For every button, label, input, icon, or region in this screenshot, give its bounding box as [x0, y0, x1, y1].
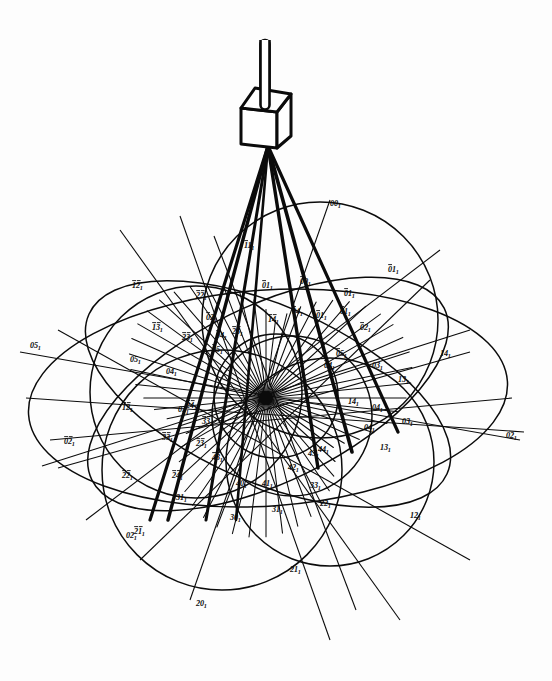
index-131-right-text: 131 — [398, 375, 409, 385]
index-bar051-right-text: 051 — [336, 349, 347, 359]
index-021-far-right-text: 021 — [506, 431, 517, 441]
index-031-right-lower-text: 031 — [402, 417, 413, 427]
index-bar011-right-upper-text: 011 — [344, 289, 355, 299]
index-141-right-text: 141 — [440, 349, 451, 359]
index-441-lower: 441 — [317, 445, 329, 455]
index-bar001-upper: 001 — [300, 277, 311, 287]
index-301-bottom: 301 — [229, 513, 241, 523]
index-221-lower: 221 — [319, 499, 331, 509]
crystallographic-projection-figure: 0010111110110010110210111212211312311410… — [0, 0, 552, 681]
index-bar331-left-text: 331 — [161, 433, 173, 443]
index-bar041-left-inner: 041 — [216, 331, 227, 341]
crystal-mount-layer — [241, 40, 291, 148]
index-bar241-mid-text: 241 — [185, 401, 197, 411]
index-211-bottom-text: 211 — [289, 565, 301, 575]
index-bar131-left-text: 131 — [152, 323, 163, 333]
index-201-bottom-text: 201 — [195, 599, 207, 609]
projection-pole-001 — [259, 391, 273, 405]
index-bar021-right-text: 021 — [360, 323, 371, 333]
index-041-right-text: 041 — [372, 403, 383, 413]
index-001-top-text: 001 — [330, 199, 341, 209]
index-bar121-left-text: 121 — [122, 403, 133, 413]
index-bar011-upper-mid: 011 — [262, 281, 273, 291]
index-bar231-left-text: 231 — [181, 333, 193, 343]
index-311-bottom-text: 311 — [271, 505, 283, 515]
index-051-far-left: 051 — [30, 341, 41, 351]
cube-front-face — [241, 108, 277, 148]
index-331-lower-text: 331 — [309, 481, 321, 491]
index-bar041-right: 041 — [324, 361, 335, 371]
index-bar221-lower-left: 221 — [121, 471, 133, 481]
index-bar041-upper: 041 — [292, 307, 303, 317]
zone-line-d1 — [120, 230, 400, 620]
index-211-bottom: 211 — [289, 565, 301, 575]
index-221-lower-text: 221 — [319, 499, 331, 509]
index-031-right-lower: 031 — [402, 417, 413, 427]
index-bar011-upper-mid-text: 011 — [262, 281, 273, 291]
index-311-bottom: 311 — [271, 505, 283, 515]
index-131-right: 131 — [398, 375, 409, 385]
index-bar231-upper-text: 231 — [231, 327, 243, 337]
index-bar011-right-upper: 011 — [344, 289, 355, 299]
index-051-left-text: 051 — [130, 355, 141, 365]
index-051-left: 051 — [130, 355, 141, 365]
index-bar021-right: 021 — [360, 323, 371, 333]
index-bar331-mid: 331 — [201, 417, 213, 427]
index-141-right: 141 — [440, 349, 451, 359]
index-bar121-left: 121 — [122, 403, 133, 413]
index-041-mid-right: 041 — [364, 423, 375, 433]
index-bar051-right: 051 — [336, 349, 347, 359]
index-bar231-lower: 231 — [195, 439, 207, 449]
index-031-right-text: 031 — [372, 361, 383, 371]
index-bar331-left: 331 — [161, 433, 173, 443]
index-bar131-left: 131 — [152, 323, 163, 333]
index-301-bottom-text: 301 — [229, 513, 241, 523]
index-121-right-lower-text: 121 — [410, 511, 421, 521]
index-421-lower: 421 — [287, 463, 299, 473]
index-201-bottom: 201 — [195, 599, 207, 609]
index-bar221-lower-left-text: 221 — [121, 471, 133, 481]
index-021-far-right: 021 — [506, 431, 517, 441]
index-311-lower-left: 311 — [175, 493, 187, 503]
index-041-mid-right-text: 041 — [364, 423, 375, 433]
stem-tip — [261, 40, 270, 110]
index-bar041-upper-text: 041 — [292, 307, 303, 317]
index-bar231-left: 231 — [181, 333, 193, 343]
zone-line-d3 — [58, 330, 470, 560]
index-bar011-upper-right: 011 — [388, 265, 399, 275]
index-bar011-upper-right-text: 011 — [388, 265, 399, 275]
index-121-right-lower: 121 — [410, 511, 421, 521]
index-bar041-left-inner-text: 041 — [216, 331, 227, 341]
index-031-right: 031 — [372, 361, 383, 371]
index-bar011-right-text: 011 — [340, 307, 351, 317]
index-411-lower: 411 — [261, 479, 273, 489]
index-bar011-right: 011 — [340, 307, 351, 317]
index-421-lower-text: 421 — [287, 463, 299, 473]
index-bar331-mid-text: 331 — [201, 417, 213, 427]
projection-drawing-canvas: 0010111110110010110210111212211312311410… — [0, 0, 552, 681]
index-051-far-left-text: 051 — [30, 341, 41, 351]
zone-circle-upper-right — [202, 202, 438, 438]
index-001-top: 001 — [330, 199, 341, 209]
index-bar011-center-upper-text: 011 — [316, 311, 327, 321]
index-bar141-upper: 141 — [268, 315, 279, 325]
index-311-lower-left-text: 311 — [175, 493, 187, 503]
index-bar241-mid: 241 — [185, 401, 197, 411]
index-331-lower: 331 — [309, 481, 321, 491]
index-131-lower-right-text: 131 — [380, 443, 391, 453]
index-131-lower-right: 131 — [380, 443, 391, 453]
index-bar141-upper-text: 141 — [268, 315, 279, 325]
index-bar231-lower-text: 231 — [195, 439, 207, 449]
index-041-right: 041 — [372, 403, 383, 413]
index-411-lower-text: 411 — [261, 479, 273, 489]
index-441-lower-text: 441 — [317, 445, 329, 455]
index-bar231-upper: 231 — [231, 327, 243, 337]
index-bar041-right-text: 041 — [324, 361, 335, 371]
zone-straight-lines-layer — [20, 200, 524, 640]
index-bar001-upper-text: 001 — [300, 277, 311, 287]
